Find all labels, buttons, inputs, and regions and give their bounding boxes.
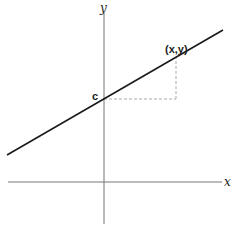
intercept-label: c [92,90,98,102]
y-axis-label: y [99,1,107,15]
point-label: (x,y) [165,43,188,55]
line-graph-diagram: y x c (x,y) [0,0,234,229]
x-axis-label: x [224,175,231,189]
graph-line [7,30,223,155]
